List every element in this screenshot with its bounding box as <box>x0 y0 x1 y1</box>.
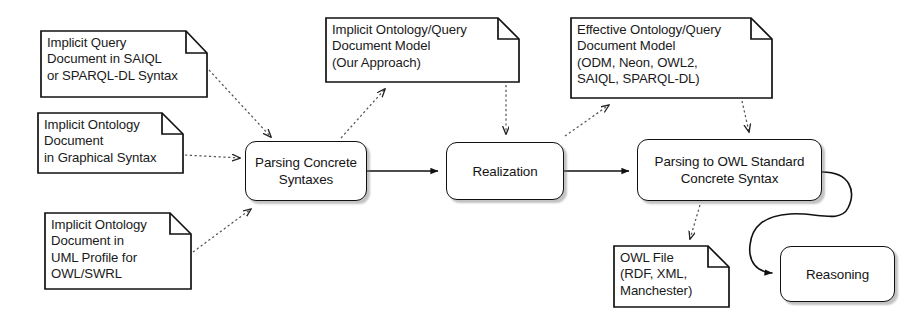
note-implicit-ontology-query-model: Implicit Ontology/Query Document Model (… <box>325 17 520 83</box>
connector-query-doc-to-parsing <box>209 70 271 137</box>
process-realization[interactable]: Realization <box>446 142 564 200</box>
process-parsing-owl-standard[interactable]: Parsing to OWL Standard Concrete Syntax <box>637 139 822 201</box>
note-label: Implicit Ontology Document in Graphical … <box>44 117 180 172</box>
note-implicit-query-document: Implicit Query Document in SAIQL or SPAR… <box>40 30 208 98</box>
connector-effective-model-to-parsing-owl <box>742 101 749 132</box>
note-label: Effective Ontology/Query Document Model … <box>577 22 769 97</box>
connector-parsing-to-implicit-model <box>341 89 385 138</box>
note-label: OWL File (RDF, XML, Manchester) <box>620 250 726 306</box>
process-parsing-concrete-syntaxes[interactable]: Parsing Concrete Syntaxes <box>245 141 367 201</box>
note-implicit-ontology-uml: Implicit Ontology Document in UML Profil… <box>44 212 192 290</box>
note-effective-ontology-query-model: Effective Ontology/Query Document Model … <box>570 17 773 99</box>
connector-parsing-owl-to-owl-file <box>690 205 700 239</box>
note-label: Implicit Ontology Document in UML Profil… <box>51 217 188 288</box>
note-implicit-ontology-graphical: Implicit Ontology Document in Graphical … <box>37 112 184 174</box>
connector-realization-to-effective-model <box>565 105 609 136</box>
note-label: Implicit Ontology/Query Document Model (… <box>332 22 516 81</box>
note-owl-file: OWL File (RDF, XML, Manchester) <box>613 245 730 308</box>
connector-uml-doc-to-parsing <box>193 209 251 252</box>
note-label: Implicit Query Document in SAIQL or SPAR… <box>47 35 204 96</box>
connector-graphical-doc-to-parsing <box>185 155 240 158</box>
diagram-canvas: Implicit Query Document in SAIQL or SPAR… <box>0 0 924 327</box>
process-reasoning[interactable]: Reasoning <box>780 246 895 302</box>
